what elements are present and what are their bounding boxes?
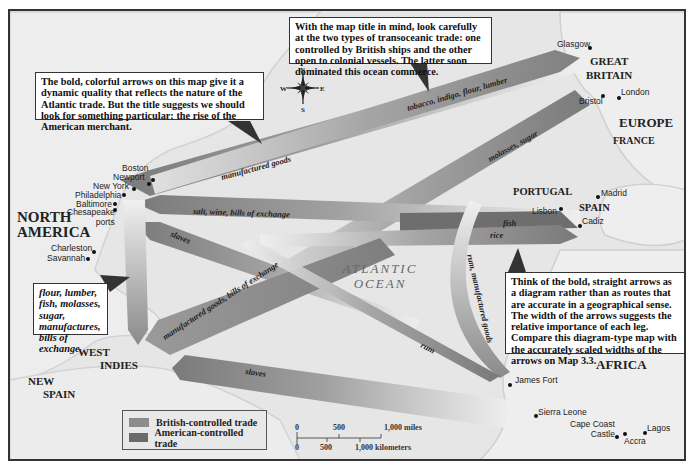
region-portugal: PORTUGAL [513,186,572,197]
region-spain: SPAIN [579,202,610,213]
region-france: FRANCE [613,135,655,146]
city-dot-charleston [92,250,96,254]
city-dot-cadiz [578,224,582,228]
label-rice: rice [490,230,503,240]
city-lisbon: Lisbon [532,206,557,216]
region-west-indies-line2: INDIES [78,359,138,372]
city-james-fort: James Fort [515,375,558,385]
city-accra: Accra [624,436,646,446]
legend-swatch-british [129,418,149,427]
city-cape-coast-castle-line2: Castle [570,429,615,439]
ocean-label: ATLANTIC OCEAN [335,261,425,291]
city-dot-chesapeake [113,208,117,212]
city-dot-savannah [86,257,90,261]
city-madrid: Madrid [601,188,627,198]
city-dot-lisbon [559,207,563,211]
city-charleston: Charleston [51,243,92,253]
city-dot-cape-coast-castle [615,435,619,439]
city-dot-baltimore [113,202,117,206]
city-london: London [621,87,649,97]
region-west-indies: WEST INDIES [78,346,138,372]
scale-km-500: 500 [320,443,332,452]
city-dot-bristol [601,94,605,98]
legend-swatch-american [129,433,148,442]
city-dot-james-fort [508,383,512,387]
region-great-britain: GREAT BRITAIN [586,54,632,82]
scale-miles-500: 500 [333,423,345,432]
callout-left: flour, lumber, fish, molasses, sugar, ma… [33,283,108,335]
compass-s: S [301,106,305,114]
legend: British-controlled trade American-contro… [122,410,267,450]
city-dot-newport [147,182,151,186]
city-chesapeake-line2: ports [67,217,115,227]
region-new-spain: NEW SPAIN [28,375,75,401]
city-dot-accra [623,432,627,436]
city-sierra-leone: Sierra Leone [538,407,587,417]
city-chesapeake: Chesapeake ports [67,207,115,227]
legend-label-american: American-controlled trade [155,427,260,449]
region-europe: EUROPE [619,115,673,131]
city-dot-new-york [132,187,136,191]
callout-right: Think of the bold, straight arrows as a … [505,272,685,354]
scale-km-1000: 1,000 kilometers [355,443,411,452]
city-savannah: Savannah [47,253,85,263]
city-cadiz: Cadiz [582,216,604,226]
compass-w: W [280,85,287,93]
region-great-britain-line1: GREAT [586,54,632,68]
city-dot-glasgow [588,46,592,50]
ocean-label-line1: ATLANTIC [335,261,425,276]
city-cape-coast-castle: Cape Coast Castle [570,419,615,439]
region-new-spain-line2: SPAIN [28,388,75,401]
callout-top-left: The bold, colorful arrows on this map gi… [35,72,264,120]
label-fish: fish [503,218,517,228]
region-great-britain-line2: BRITAIN [586,68,632,82]
city-dot-madrid [596,195,600,199]
city-glasgow: Glasgow [557,39,590,49]
region-north-america-line2: AMERICA [17,225,90,240]
city-dot-boston [151,178,155,182]
callout-top-center: With the map title in mind, look careful… [289,17,492,64]
city-dot-sierra-leone [534,414,538,418]
compass-e: E [320,85,325,93]
city-chesapeake-line1: Chesapeake [67,207,115,217]
city-dot-lagos [643,431,647,435]
city-dot-philadelphia [122,193,126,197]
scale-km-0: 0 [295,443,299,452]
scale-miles-1000: 1,000 miles [384,423,422,432]
city-lagos: Lagos [647,423,670,433]
city-dot-london [617,96,621,100]
region-new-spain-line1: NEW [28,375,75,388]
region-west-indies-line1: WEST [78,346,138,359]
region-africa: AFRICA [596,357,647,373]
city-bristol: Bristol [579,96,603,106]
legend-item-american: American-controlled trade [129,430,260,445]
scale-miles-0: 0 [295,423,299,432]
ocean-label-line2: OCEAN [335,276,425,291]
city-cape-coast-castle-line1: Cape Coast [570,419,615,429]
